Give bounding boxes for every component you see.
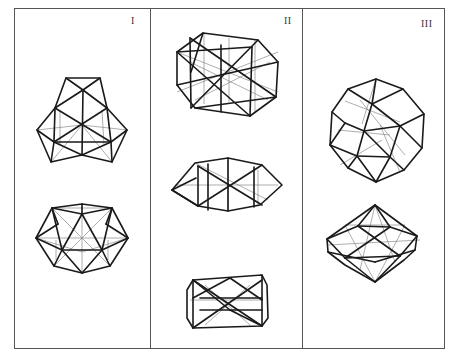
panel-2-upper-model: [177, 33, 278, 116]
panel-3-lower-model: [327, 205, 420, 282]
polyhedra-figure: [0, 0, 461, 360]
panel-2-middle-model: [172, 158, 282, 211]
panel-2-lower-model: [187, 275, 268, 328]
panel-1-lower-model: [36, 204, 128, 273]
panel-1-upper-model: [37, 78, 127, 162]
panel-3-upper-model: [330, 79, 424, 182]
